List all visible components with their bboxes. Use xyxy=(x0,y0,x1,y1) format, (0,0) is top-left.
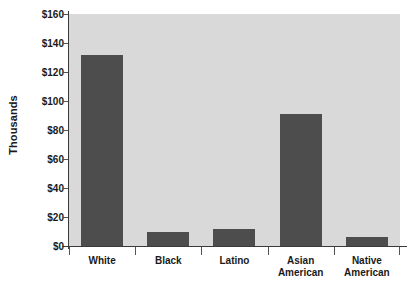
y-axis-tick-label: $40 xyxy=(26,183,64,194)
y-axis-tick-label: $0 xyxy=(26,241,64,252)
y-axis-tick-label: $120 xyxy=(26,67,64,78)
bar-asian-american[interactable] xyxy=(280,114,322,246)
bar-slot xyxy=(334,14,400,246)
x-axis-separator xyxy=(135,247,136,255)
x-axis-tick-label: Latino xyxy=(201,255,267,267)
bar-latino[interactable] xyxy=(213,229,255,246)
y-axis-tick-labels: $0$20$40$60$80$100$120$140$160 xyxy=(26,14,64,246)
y-axis-title-label: Thousands xyxy=(7,95,19,155)
y-axis-tick-label: $160 xyxy=(26,9,64,20)
x-axis-separator xyxy=(201,247,202,255)
y-axis-tick-label: $140 xyxy=(26,38,64,49)
bar-chart: Thousands $0$20$40$60$80$100$120$140$160… xyxy=(0,0,412,286)
y-axis-tick-label: $60 xyxy=(26,154,64,165)
x-axis-tick-label: AsianAmerican xyxy=(268,255,334,279)
x-axis-separators xyxy=(69,247,400,255)
bar-black[interactable] xyxy=(147,232,189,247)
x-axis-separator xyxy=(69,247,70,255)
bar-native-american[interactable] xyxy=(346,237,388,246)
x-axis-separator xyxy=(268,247,269,255)
x-axis-separator xyxy=(334,247,335,255)
bar-white[interactable] xyxy=(81,55,123,246)
bar-slot xyxy=(135,14,201,246)
x-axis-separator xyxy=(399,247,400,255)
x-axis-tick-label: Black xyxy=(135,255,201,267)
x-axis-tick-labels: WhiteBlackLatinoAsianAmericanNativeAmeri… xyxy=(69,255,400,285)
y-axis-tick-label: $100 xyxy=(26,96,64,107)
bar-slot xyxy=(201,14,267,246)
y-axis-tick-label: $20 xyxy=(26,212,64,223)
y-axis-title: Thousands xyxy=(0,0,26,250)
bars-layer xyxy=(69,14,400,246)
x-axis-tick-label: NativeAmerican xyxy=(334,255,400,279)
bar-slot xyxy=(268,14,334,246)
y-axis-tick-label: $80 xyxy=(26,125,64,136)
bar-slot xyxy=(69,14,135,246)
plot-area xyxy=(69,14,400,246)
x-axis-tick-label: White xyxy=(69,255,135,267)
